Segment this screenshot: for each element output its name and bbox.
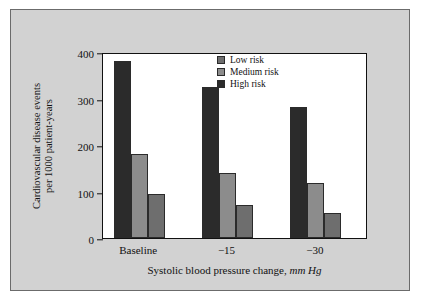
- bar-group: [114, 54, 165, 238]
- legend: Low riskMedium riskHigh risk: [217, 54, 279, 90]
- bar: [307, 183, 324, 238]
- x-axis-title-text: Systolic blood pressure change,: [147, 264, 286, 276]
- bar: [290, 107, 307, 238]
- legend-label: Medium risk: [230, 67, 279, 77]
- y-axis-title-line2: per 1000 patient-years: [43, 83, 56, 209]
- legend-swatch-icon: [217, 80, 225, 88]
- x-tick-label: −15: [218, 244, 235, 256]
- x-tick-label: −30: [306, 244, 323, 256]
- x-axis-title: Systolic blood pressure change, mm Hg: [102, 264, 367, 276]
- legend-item: Low risk: [217, 54, 279, 65]
- y-tick-label: 100: [78, 188, 95, 200]
- y-tick-label: 200: [78, 141, 95, 153]
- y-tick-mark: [97, 239, 103, 240]
- legend-label: High risk: [230, 79, 266, 89]
- bar: [114, 61, 131, 238]
- y-axis-title-line1: Cardiovascular disease events: [31, 83, 44, 209]
- legend-label: Low risk: [230, 55, 264, 65]
- y-tick-label: 0: [89, 234, 95, 246]
- x-tick-label: Baseline: [119, 244, 157, 256]
- y-tick-label: 400: [78, 48, 95, 60]
- legend-swatch-icon: [217, 68, 225, 76]
- bar: [131, 154, 148, 238]
- figure-panel: Cardiovascular disease events per 1000 p…: [10, 9, 410, 291]
- bar: [219, 173, 236, 238]
- x-axis-title-units: mm Hg: [289, 264, 321, 276]
- legend-item: Medium risk: [217, 66, 279, 77]
- y-tick-label: 300: [78, 95, 95, 107]
- bar: [202, 87, 219, 238]
- bar-group: [290, 54, 341, 238]
- legend-item: High risk: [217, 78, 279, 89]
- bar: [324, 213, 341, 238]
- y-axis-title: Cardiovascular disease events per 1000 p…: [31, 53, 55, 239]
- bar: [236, 205, 253, 238]
- bar: [148, 194, 165, 238]
- legend-swatch-icon: [217, 56, 225, 64]
